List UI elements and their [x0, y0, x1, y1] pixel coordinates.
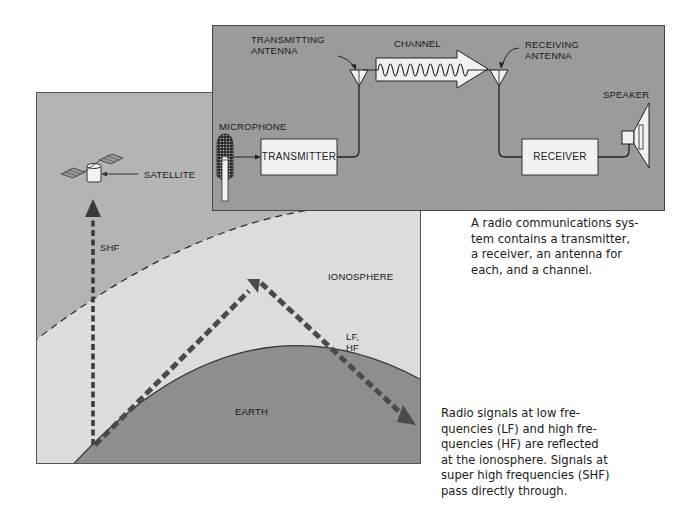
speaker-icon	[622, 103, 649, 168]
receiving-antenna-label: RECEIVING ANTENNA	[525, 39, 579, 61]
channel-label: CHANNEL	[394, 38, 441, 49]
ionosphere-label: IONOSPHERE	[328, 271, 393, 282]
propagation-caption: Radio signals at low fre- quencies (LF) …	[441, 406, 681, 499]
channel-arrow-icon	[363, 50, 495, 88]
transmitter-label: TRANSMITTER	[261, 151, 337, 162]
speaker-label: SPEAKER	[603, 89, 649, 100]
shf-label: SHF	[100, 242, 120, 253]
microphone-label: MICROPHONE	[219, 121, 286, 132]
satellite-icon	[61, 154, 123, 182]
satellite-label: SATELLITE	[144, 169, 195, 180]
microphone-icon	[217, 134, 233, 201]
shf-arrowhead	[85, 199, 101, 217]
transmitting-antenna-label: TRANSMITTING ANTENNA	[251, 34, 325, 56]
receiver-label: RECEIVER	[522, 151, 598, 162]
communications-system-diagram: TRANSMITTING ANTENNA CHANNEL RECEIVING A…	[212, 25, 665, 211]
earth-label: EARTH	[235, 406, 268, 417]
system-caption: A radio communications sys- tem contains…	[471, 216, 681, 278]
lf-hf-label: LF, HF	[346, 331, 359, 353]
